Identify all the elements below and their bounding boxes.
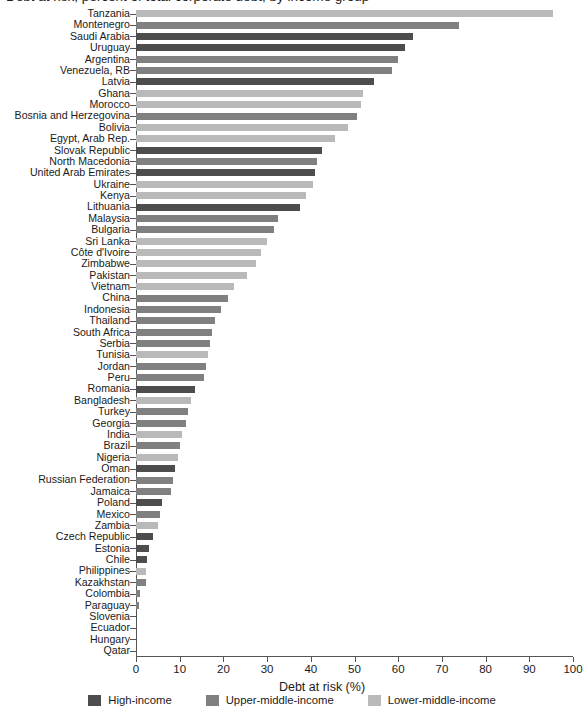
bar — [136, 317, 215, 324]
bar-category-label: Bulgaria — [0, 224, 130, 235]
bar-category-label: Uruguay — [0, 42, 130, 53]
bar — [136, 238, 267, 245]
legend-item-high[interactable]: High-income — [88, 694, 171, 706]
bar — [136, 442, 180, 449]
legend-swatch-icon — [206, 695, 219, 706]
bar-row: South Africa — [0, 327, 584, 338]
bar — [136, 374, 204, 381]
bar-category-label: Czech Republic — [0, 531, 130, 542]
bar — [136, 90, 363, 97]
bar — [136, 499, 162, 506]
x-axis-tick-label: 30 — [247, 663, 287, 675]
legend-label: High-income — [108, 694, 171, 706]
bar — [136, 408, 188, 415]
bar — [136, 351, 208, 358]
bar-category-label: Thailand — [0, 315, 130, 326]
bar — [136, 363, 206, 370]
x-axis-tick — [398, 657, 399, 662]
bar — [136, 56, 398, 63]
bar-row: India — [0, 429, 584, 440]
chart-legend: High-incomeUpper-middle-incomeLower-midd… — [0, 694, 584, 706]
bar-row: Tunisia — [0, 349, 584, 360]
bar-category-label: Poland — [0, 497, 130, 508]
x-axis-tick — [529, 657, 530, 662]
bar-row: Slovenia — [0, 611, 584, 622]
bar-row: Vietnam — [0, 281, 584, 292]
bar-row: Serbia — [0, 338, 584, 349]
bar-row: United Arab Emirates — [0, 167, 584, 178]
bar-row: Nigeria — [0, 452, 584, 463]
x-axis-tick-label: 70 — [422, 663, 462, 675]
bar-row: Indonesia — [0, 304, 584, 315]
bar — [136, 158, 317, 165]
x-axis-tick-label: 100 — [553, 663, 584, 675]
bar-row: Russian Federation — [0, 474, 584, 485]
x-axis-tick — [223, 657, 224, 662]
bar-row: Estonia — [0, 543, 584, 554]
bar — [136, 386, 195, 393]
bar-category-label: United Arab Emirates — [0, 167, 130, 178]
bar — [136, 465, 175, 472]
bar — [136, 454, 178, 461]
x-axis-tick-label: 50 — [335, 663, 375, 675]
bar — [136, 78, 374, 85]
bar — [136, 67, 392, 74]
bar-row: Qatar — [0, 645, 584, 656]
bar-category-label: Colombia — [0, 588, 130, 599]
y-axis-tick — [130, 628, 136, 629]
bar — [136, 260, 256, 267]
bar-category-label: Turkey — [0, 406, 130, 417]
bar — [136, 169, 315, 176]
bar — [136, 397, 191, 404]
x-axis-tick-label: 40 — [291, 663, 331, 675]
bar — [136, 204, 300, 211]
x-axis-tick-label: 90 — [509, 663, 549, 675]
bar — [136, 113, 357, 120]
chart-title-clipped: Debt at risk, percent of total corporate… — [0, 0, 584, 7]
legend-item-upper[interactable]: Upper-middle-income — [206, 694, 334, 706]
bar — [136, 10, 553, 17]
bar-row: Saudi Arabia — [0, 31, 584, 42]
y-axis-tick — [130, 639, 136, 640]
bar-row: Ukraine — [0, 179, 584, 190]
bar-category-label: Latvia — [0, 76, 130, 87]
bar — [136, 579, 146, 586]
bar-row: Hungary — [0, 634, 584, 645]
bar — [136, 147, 322, 154]
bar — [136, 488, 171, 495]
bar — [136, 545, 149, 552]
bar — [136, 613, 137, 620]
page-title: Debt at risk, percent of total corporate… — [6, 0, 369, 4]
x-axis-tick-label: 10 — [160, 663, 200, 675]
bar-row: Paraguay — [0, 600, 584, 611]
bar — [136, 249, 261, 256]
bar — [136, 306, 221, 313]
bar-row: Malaysia — [0, 213, 584, 224]
bar — [136, 101, 361, 108]
bar — [136, 556, 147, 563]
x-axis-tick — [442, 657, 443, 662]
bar-category-label: Tunisia — [0, 349, 130, 360]
bar-row: Poland — [0, 497, 584, 508]
x-axis-title: Debt at risk (%) — [0, 680, 584, 694]
bar — [136, 420, 186, 427]
bar-category-label: Ecuador — [0, 622, 130, 633]
bar — [136, 181, 313, 188]
bar-row: Czech Republic — [0, 531, 584, 542]
legend-label: Lower-middle-income — [388, 694, 496, 706]
bar-category-label: Qatar — [0, 645, 130, 656]
bar-row: Zimbabwe — [0, 258, 584, 269]
bar — [136, 283, 234, 290]
x-axis-tick — [573, 657, 574, 662]
x-axis-tick-label: 20 — [203, 663, 243, 675]
y-axis-tick — [130, 651, 136, 652]
bar — [136, 44, 405, 51]
bar-row: Bulgaria — [0, 224, 584, 235]
bar — [136, 590, 140, 597]
x-axis-tick-label: 80 — [466, 663, 506, 675]
bar — [136, 295, 228, 302]
legend-item-lower[interactable]: Lower-middle-income — [368, 694, 496, 706]
bar-row: Colombia — [0, 588, 584, 599]
bar-category-label: Egypt, Arab Rep. — [0, 133, 130, 144]
bar-category-label: Brazil — [0, 440, 130, 451]
